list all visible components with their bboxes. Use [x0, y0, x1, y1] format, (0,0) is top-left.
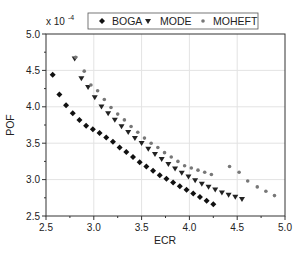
data-point-mode — [179, 171, 185, 176]
data-point-boga — [76, 117, 82, 123]
data-point-boga — [83, 123, 89, 129]
y-tick-label: 3.0 — [26, 174, 40, 185]
data-point-boga — [150, 168, 156, 174]
data-point-boga — [63, 102, 69, 108]
y-tick-label: 3.5 — [26, 138, 40, 149]
data-point-moheft — [228, 165, 232, 169]
data-point-mode — [206, 185, 212, 190]
data-point-moheft — [176, 160, 180, 164]
data-point-moheft — [156, 146, 160, 150]
star-icon — [201, 19, 205, 23]
data-point-mode — [165, 162, 171, 167]
data-point-moheft — [190, 166, 194, 170]
y-multiplier: x 10 -4 — [46, 14, 74, 27]
y-tick-label: 4.0 — [26, 101, 40, 112]
data-point-moheft — [96, 89, 100, 93]
legend: BOGA MODE MOHEFT — [88, 13, 258, 29]
data-point-mode — [112, 118, 118, 123]
data-point-moheft — [149, 141, 153, 145]
data-point-mode — [226, 193, 232, 198]
data-point-mode — [132, 136, 138, 141]
data-point-moheft — [264, 189, 268, 193]
y-tick-label: 4.5 — [26, 65, 40, 76]
data-point-mode — [119, 124, 125, 129]
data-point-moheft — [103, 98, 107, 102]
data-point-mode — [145, 147, 151, 152]
data-point-moheft — [255, 185, 259, 189]
legend-label-moheft: MOHEFT — [213, 15, 258, 27]
data-point-mode — [219, 191, 225, 196]
x-tick-label: 4.0 — [182, 222, 196, 233]
y-tick-label: 2.5 — [26, 211, 40, 222]
x-tick-label: 2.5 — [39, 222, 53, 233]
data-point-boga — [163, 176, 169, 182]
plot-frame — [46, 34, 285, 216]
data-point-moheft — [109, 106, 113, 110]
x-tick-label: 4.5 — [230, 222, 244, 233]
data-point-boga — [184, 187, 190, 193]
data-point-moheft — [74, 55, 78, 59]
y-multiplier-base: x 10 — [46, 16, 65, 27]
grid-lines — [46, 34, 285, 216]
data-point-mode — [192, 178, 198, 183]
x-tick-label: 3.5 — [135, 222, 149, 233]
data-point-moheft — [116, 112, 120, 116]
data-point-boga — [56, 91, 62, 97]
data-point-boga — [70, 110, 76, 116]
data-point-boga — [110, 139, 116, 145]
legend-label-mode: MODE — [160, 15, 192, 27]
data-points — [50, 55, 277, 207]
axis-ticks: 2.53.03.54.04.55.02.53.03.54.04.55.0 — [26, 29, 292, 234]
data-point-moheft — [143, 136, 147, 140]
x-axis-title: ECR — [154, 234, 177, 246]
data-point-mode — [125, 130, 131, 135]
data-point-mode — [199, 182, 205, 187]
data-point-moheft — [246, 179, 250, 183]
data-point-boga — [170, 180, 176, 186]
data-point-moheft — [89, 83, 93, 87]
data-point-mode — [152, 152, 158, 157]
data-point-moheft — [196, 168, 200, 172]
y-axis-title: POF — [4, 114, 16, 136]
data-point-moheft — [273, 194, 277, 198]
data-point-boga — [157, 172, 163, 178]
data-point-boga — [197, 194, 203, 200]
data-point-moheft — [123, 118, 127, 122]
y-multiplier-exponent: -4 — [68, 14, 74, 21]
data-point-moheft — [129, 125, 133, 129]
data-point-mode — [92, 95, 98, 100]
data-point-moheft — [203, 171, 207, 175]
data-point-boga — [103, 134, 109, 140]
x-tick-label: 3.0 — [87, 222, 101, 233]
data-point-moheft — [163, 151, 167, 155]
data-point-boga — [50, 72, 56, 78]
legend-label-boga: BOGA — [112, 15, 142, 27]
data-point-boga — [90, 126, 96, 132]
data-point-mode — [78, 76, 84, 81]
data-point-moheft — [237, 171, 241, 175]
data-point-mode — [239, 197, 245, 202]
data-point-mode — [172, 166, 178, 171]
data-point-boga — [123, 149, 129, 155]
data-point-mode — [185, 174, 191, 179]
data-point-boga — [117, 145, 123, 151]
data-point-boga — [190, 190, 196, 196]
data-point-boga — [97, 130, 103, 136]
x-tick-label: 5.0 — [278, 222, 292, 233]
data-point-moheft — [183, 164, 187, 168]
data-point-moheft — [169, 155, 173, 159]
data-point-boga — [177, 183, 183, 189]
data-point-mode — [159, 157, 165, 162]
data-point-boga — [204, 198, 210, 204]
data-point-moheft — [82, 69, 86, 73]
y-tick-label: 5.0 — [26, 29, 40, 40]
data-point-boga — [210, 201, 216, 207]
data-point-mode — [212, 188, 218, 193]
data-point-moheft — [136, 130, 140, 134]
data-point-moheft — [210, 173, 214, 177]
scatter-chart: 2.53.03.54.04.55.02.53.03.54.04.55.0 ECR… — [0, 0, 308, 255]
data-point-mode — [105, 111, 111, 116]
data-point-boga — [143, 163, 149, 169]
data-point-boga — [130, 154, 136, 160]
